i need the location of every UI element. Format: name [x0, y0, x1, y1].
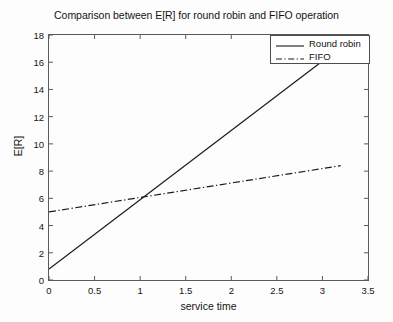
y-tick-label: 0 [14, 275, 44, 286]
y-tick-label: 12 [14, 111, 44, 122]
chart-title: Comparison between E[R] for round robin … [0, 9, 393, 21]
plot-area [48, 34, 369, 281]
y-tick-label: 18 [14, 30, 44, 41]
y-tick-label: 2 [14, 247, 44, 258]
y-tick-label: 4 [14, 220, 44, 231]
legend-line-sample-dashdot [275, 51, 305, 63]
y-tick-label: 10 [14, 138, 44, 149]
y-tick-label: 6 [14, 193, 44, 204]
x-axis-tick-labels: 00.511.522.533.5 [48, 285, 369, 301]
y-tick-label: 8 [14, 166, 44, 177]
x-tick-label: 1 [120, 285, 160, 296]
x-tick-label: 2.5 [257, 285, 297, 296]
legend-label-fifo: FIFO [309, 51, 331, 62]
y-axis-tick-labels: 024681012141618 [10, 34, 44, 281]
x-tick-label: 3 [302, 285, 342, 296]
series-line [49, 47, 341, 269]
x-axis-label: service time [48, 300, 369, 312]
plot-lines-svg [49, 35, 368, 280]
x-tick-label: 3.5 [348, 285, 388, 296]
legend-item-round-robin: Round robin [271, 37, 369, 50]
legend-box: Round robin FIFO [270, 35, 370, 64]
legend-label-round-robin: Round robin [309, 38, 361, 49]
x-tick-label: 0.5 [75, 285, 115, 296]
legend-item-fifo: FIFO [271, 50, 369, 63]
legend-line-sample-solid [275, 38, 305, 50]
y-tick-label: 14 [14, 84, 44, 95]
y-tick-label: 16 [14, 57, 44, 68]
series-line [49, 166, 341, 212]
x-tick-label: 2 [211, 285, 251, 296]
x-tick-label: 0 [29, 285, 69, 296]
x-tick-label: 1.5 [166, 285, 206, 296]
figure-canvas: Comparison between E[R] for round robin … [0, 0, 393, 322]
